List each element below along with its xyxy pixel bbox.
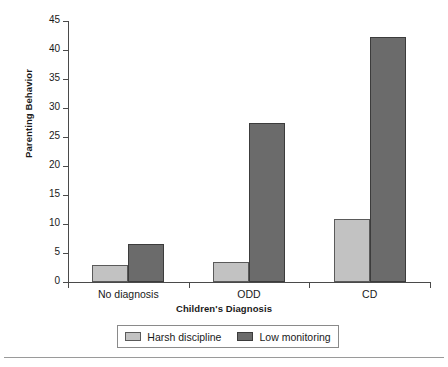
y-axis-title: Parenting Behavior	[23, 34, 34, 194]
x-axis-tick-label: ODD	[237, 288, 260, 300]
bar	[249, 123, 285, 282]
y-axis-tick-label: 20	[38, 159, 60, 170]
legend-label: Low monitoring	[259, 331, 330, 343]
y-axis-tick-label: 15	[38, 188, 60, 199]
chart-legend: Harsh disciplineLow monitoring	[117, 325, 339, 348]
x-axis-tick-label: CD	[362, 288, 377, 300]
legend-swatch	[237, 332, 253, 341]
bar	[334, 219, 370, 282]
legend-label: Harsh discipline	[147, 331, 221, 343]
y-axis-tick-label: 30	[38, 101, 60, 112]
legend-entry: Harsh discipline	[125, 331, 221, 343]
bar	[92, 265, 128, 282]
x-axis-tick-right	[430, 283, 431, 288]
bar	[128, 244, 164, 282]
bottom-divider	[4, 357, 444, 358]
y-axis-tick-label: 35	[38, 72, 60, 83]
y-axis-tick-label: 0	[38, 275, 60, 286]
x-axis-tick-mark	[309, 283, 310, 288]
bar-group	[189, 21, 310, 282]
x-axis-tick-label: No diagnosis	[98, 288, 159, 300]
bar-group	[309, 21, 430, 282]
x-axis-tick-mark	[68, 283, 69, 288]
y-axis-tick-label: 45	[38, 14, 60, 25]
bar-chart-figure: Parenting Behavior 051015202530354045 No…	[0, 0, 448, 367]
x-axis-tick-mark	[189, 283, 190, 288]
plot-area: 051015202530354045	[68, 21, 430, 282]
x-axis-title: Children's Diagnosis	[0, 303, 448, 314]
y-axis-tick-label: 40	[38, 43, 60, 54]
y-axis-tick-label: 25	[38, 130, 60, 141]
bar	[370, 37, 406, 282]
bar-group	[68, 21, 189, 282]
y-axis-tick-label: 5	[38, 246, 60, 257]
bar	[213, 262, 249, 282]
legend-swatch	[125, 332, 141, 341]
x-axis-line	[68, 282, 431, 283]
y-axis-tick-label: 10	[38, 217, 60, 228]
legend-entry: Low monitoring	[237, 331, 330, 343]
